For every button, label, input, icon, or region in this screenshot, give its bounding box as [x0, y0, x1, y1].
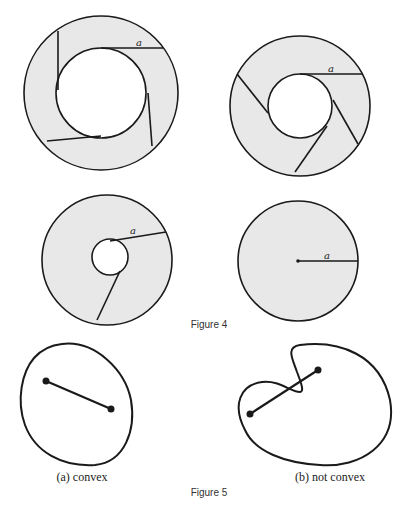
fig4-panel-3: a [42, 195, 172, 325]
convex-label: (a) convex [57, 470, 108, 484]
radius-label: a [328, 63, 334, 74]
figure4-caption: Figure 4 [191, 319, 228, 330]
radius-label: a [324, 250, 330, 261]
fig4-panel-2: a [230, 36, 370, 176]
nonconvex-label: (b) not convex [295, 470, 365, 484]
radius-label: a [130, 225, 136, 236]
radius-label: a [136, 37, 142, 48]
fig4-panel-4: a [238, 201, 358, 321]
fig5-convex: (a) convex [21, 344, 132, 484]
figure-canvas: a a a a Figure 4 (a) convex [0, 0, 419, 514]
fig4-panel-1: a [24, 16, 178, 170]
figure5-caption: Figure 5 [191, 487, 228, 498]
fig5-nonconvex: (b) not convex [239, 344, 391, 484]
